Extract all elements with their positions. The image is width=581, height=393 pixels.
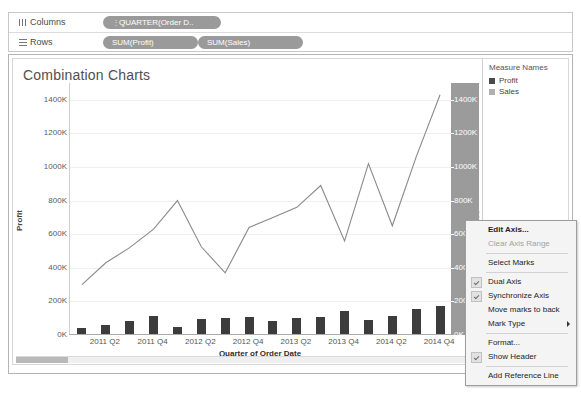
axis-context-menu[interactable]: Edit Axis...Clear Axis RangeSelect Marks… <box>465 220 577 386</box>
horizontal-scrollbar-thumb[interactable] <box>16 357 68 363</box>
menu-item-mark-type[interactable]: Mark Type <box>466 317 576 331</box>
checkmark-icon <box>471 352 482 363</box>
menu-separator <box>486 366 568 367</box>
menu-item-label: Synchronize Axis <box>488 291 549 300</box>
x-axis-tick-label: 2011 Q2 <box>81 337 129 346</box>
menu-item-label: Edit Axis... <box>488 225 529 234</box>
checkmark-icon <box>471 277 482 288</box>
columns-label-text: Columns <box>30 17 66 27</box>
menu-item-show-header[interactable]: Show Header <box>466 350 576 364</box>
y-axis-tick-label: 1200K <box>31 128 67 137</box>
y-axis-title: Profit <box>15 210 24 231</box>
y-axis-tick-label: 200K <box>31 296 67 305</box>
pill-grip-icon: ⋮⋮ <box>112 16 117 29</box>
rows-label-text: Rows <box>30 37 53 47</box>
menu-item-synchronize-axis[interactable]: Synchronize Axis <box>466 289 576 303</box>
pill-sum-sales-label: SUM(Sales) <box>207 38 250 47</box>
legend-title: Measure Names <box>489 63 548 72</box>
menu-item-label: Move marks to back <box>488 305 560 314</box>
pill-quarter-order-date-label: QUARTER(Order D.. <box>119 18 194 27</box>
rows-shelf[interactable]: Rows SUM(Profit) SUM(Sales) <box>9 33 572 53</box>
shelf-area: Columns ⋮⋮QUARTER(Order D.. Rows SUM(Pro… <box>8 12 573 52</box>
menu-item-edit-axis[interactable]: Edit Axis... <box>466 223 576 237</box>
x-axis-tick-label: 2012 Q4 <box>224 337 272 346</box>
menu-separator <box>486 333 568 334</box>
menu-item-label: Clear Axis Range <box>488 239 550 248</box>
menu-item-label: Format... <box>488 338 520 347</box>
y2-axis-tick-label: 1200K <box>454 128 477 137</box>
pill-quarter-order-date[interactable]: ⋮⋮QUARTER(Order D.. <box>103 16 221 29</box>
legend-swatch-icon <box>489 78 495 84</box>
pill-sum-sales[interactable]: SUM(Sales) <box>198 36 303 49</box>
x-axis-tick-label: 2013 Q2 <box>272 337 320 346</box>
chart-plot-area: Profit Sales 1400K1200K1000K800K600K400K… <box>13 83 486 363</box>
menu-item-format[interactable]: Format... <box>466 336 576 350</box>
menu-item-add-reference-line[interactable]: Add Reference Line <box>466 369 576 383</box>
y2-axis-tick-label: 1000K <box>454 162 477 171</box>
line-series-sales <box>70 83 451 335</box>
menu-item-clear-axis-range: Clear Axis Range <box>466 237 576 251</box>
menu-item-label: Dual Axis <box>488 277 521 286</box>
legend-item-sales[interactable]: Sales <box>489 87 519 96</box>
checkmark-icon <box>471 291 482 302</box>
menu-separator <box>486 272 568 273</box>
y-axis-tick-label: 400K <box>31 263 67 272</box>
y-axis-tick-label: 1000K <box>31 162 67 171</box>
menu-item-dual-axis[interactable]: Dual Axis <box>466 275 576 289</box>
rows-grip-icon <box>19 39 26 46</box>
columns-grip-icon <box>19 19 26 26</box>
tableau-worksheet-screen: Columns ⋮⋮QUARTER(Order D.. Rows SUM(Pro… <box>0 0 581 393</box>
y-axis-tick-label: 600K <box>31 229 67 238</box>
x-axis-tick-label: 2014 Q2 <box>367 337 415 346</box>
pill-sum-profit-label: SUM(Profit) <box>112 38 154 47</box>
legend-item-profit[interactable]: Profit <box>489 76 518 85</box>
x-axis-tick-label: 2014 Q4 <box>415 337 463 346</box>
y-axis-tick-label: 800K <box>31 196 67 205</box>
x-axis-tick-label: 2013 Q4 <box>320 337 368 346</box>
page-title: Combination Charts <box>23 67 150 83</box>
x-axis-tick-label: 2012 Q2 <box>176 337 224 346</box>
legend-swatch-icon <box>489 89 495 95</box>
chart-canvas[interactable] <box>69 83 451 335</box>
rows-shelf-label: Rows <box>19 37 53 47</box>
y2-axis-tick-label: 1400K <box>454 95 477 104</box>
menu-item-label: Mark Type <box>488 319 525 328</box>
submenu-arrow-icon <box>567 321 570 327</box>
menu-item-select-marks[interactable]: Select Marks <box>466 256 576 270</box>
line-path[interactable] <box>82 95 440 285</box>
columns-shelf-label: Columns <box>19 17 66 27</box>
menu-item-label: Add Reference Line <box>488 371 559 380</box>
menu-item-label: Show Header <box>488 352 536 361</box>
y2-axis-tick-label: 800K <box>454 196 473 205</box>
menu-item-label: Select Marks <box>488 258 534 267</box>
legend-item-sales-label: Sales <box>499 87 519 96</box>
legend-item-profit-label: Profit <box>499 76 518 85</box>
columns-shelf[interactable]: Columns ⋮⋮QUARTER(Order D.. <box>9 13 572 33</box>
menu-separator <box>486 253 568 254</box>
pill-sum-profit[interactable]: SUM(Profit) <box>103 36 198 49</box>
menu-item-move-marks-to-back[interactable]: Move marks to back <box>466 303 576 317</box>
y-axis-tick-label: 1400K <box>31 95 67 104</box>
x-axis-tick-label: 2011 Q4 <box>129 337 177 346</box>
y-axis-tick-label: 0K <box>31 330 67 339</box>
